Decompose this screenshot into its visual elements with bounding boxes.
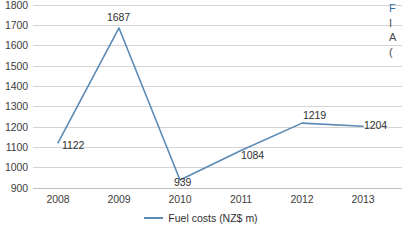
line-chart: 1800 1700 1600 1500 1400 1300 1200 1100 … [0, 0, 402, 231]
data-label-2013: 1204 [364, 120, 387, 131]
y-axis-tick: 1600 [5, 40, 28, 51]
y-axis-tick: 1200 [5, 122, 28, 133]
data-label-2010: 939 [174, 177, 191, 188]
data-label-2009: 1687 [107, 12, 130, 23]
cropped-edge-text-line: A [389, 30, 402, 45]
cropped-edge-text-line: ( [389, 45, 402, 60]
data-label-2012: 1219 [303, 110, 326, 121]
cropped-edge-text-line: F [389, 1, 402, 16]
cropped-edge-text-line: I [389, 16, 402, 31]
chart-legend: Fuel costs (NZ$ m) [0, 213, 402, 224]
series-line-fuel-costs [33, 0, 402, 189]
plot-area: 1122 1687 939 1084 1219 1204 [33, 0, 402, 189]
data-label-2011: 1084 [241, 150, 264, 161]
x-axis-tick-2013: 2013 [352, 194, 375, 205]
y-axis-tick: 1800 [5, 0, 28, 10]
y-axis-tick: 1500 [5, 61, 28, 72]
legend-label: Fuel costs (NZ$ m) [168, 213, 257, 224]
x-axis-tick-2012: 2012 [291, 194, 314, 205]
data-label-2008: 1122 [62, 140, 84, 151]
legend-swatch-icon [144, 217, 163, 219]
y-axis-tick: 1100 [6, 142, 28, 153]
x-axis-tick-2008: 2008 [47, 194, 70, 205]
x-axis-tick-2011: 2011 [230, 194, 252, 205]
x-axis-tick-2010: 2010 [169, 194, 192, 205]
y-axis-tick: 1000 [5, 162, 28, 173]
cropped-edge-text: F I A ( [389, 1, 402, 59]
y-axis-tick: 1700 [5, 20, 28, 31]
y-axis-tick: 1300 [5, 101, 28, 112]
y-axis-labels: 1800 1700 1600 1500 1400 1300 1200 1100 … [0, 0, 31, 195]
y-axis-tick: 1400 [5, 81, 28, 92]
x-axis-labels: 2008 2009 2010 2011 2012 2013 [33, 194, 402, 212]
x-axis-tick-2009: 2009 [108, 194, 131, 205]
y-axis-tick: 900 [11, 183, 28, 194]
